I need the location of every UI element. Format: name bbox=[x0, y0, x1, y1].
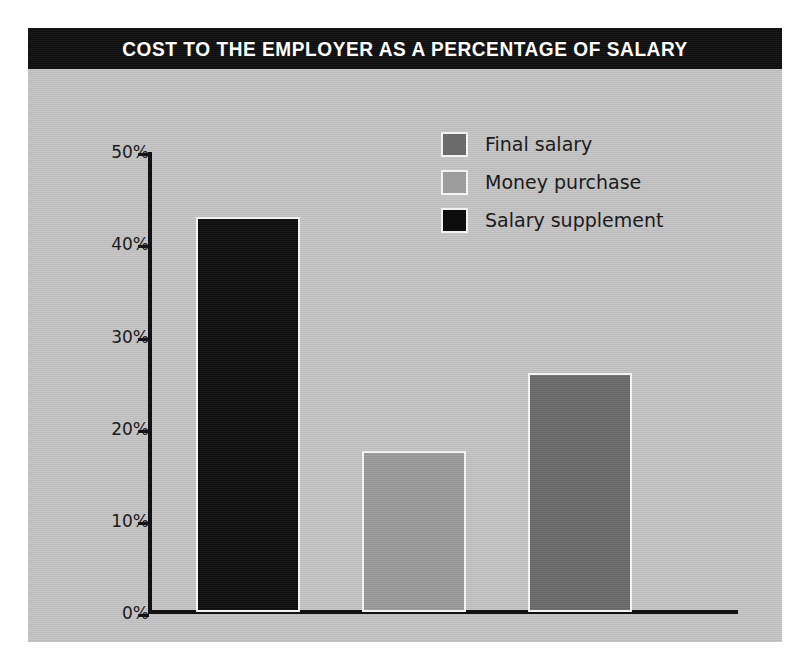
plot-area: 0% 10% 20% 30% 40% 50% bbox=[28, 69, 782, 642]
chart-panel: COST TO THE EMPLOYER AS A PERCENTAGE OF … bbox=[28, 28, 782, 642]
bar-texture bbox=[364, 453, 464, 610]
chart-title: COST TO THE EMPLOYER AS A PERCENTAGE OF … bbox=[122, 37, 688, 61]
bar-salary-supplement bbox=[196, 217, 300, 612]
bar-final-salary bbox=[528, 373, 632, 612]
y-tick-label: 10% bbox=[45, 511, 149, 531]
y-tick-label: 50% bbox=[45, 142, 149, 162]
legend-label: Final salary bbox=[485, 133, 592, 155]
legend-label: Salary supplement bbox=[485, 209, 663, 231]
legend-item-salary-supplement: Salary supplement bbox=[441, 201, 663, 239]
legend-swatch bbox=[441, 132, 468, 157]
chart-figure: COST TO THE EMPLOYER AS A PERCENTAGE OF … bbox=[0, 0, 810, 668]
bar-texture bbox=[198, 219, 298, 610]
legend-label: Money purchase bbox=[485, 171, 641, 193]
chart-legend: Final salary Money purchase Salary suppl… bbox=[441, 125, 663, 239]
y-axis-line bbox=[148, 152, 152, 614]
legend-swatch bbox=[441, 208, 468, 233]
y-tick-label: 40% bbox=[45, 234, 149, 254]
legend-item-final-salary: Final salary bbox=[441, 125, 663, 163]
y-tick-label: 20% bbox=[45, 419, 149, 439]
bar-texture bbox=[530, 375, 630, 610]
y-tick-label: 0% bbox=[45, 603, 149, 623]
legend-swatch bbox=[441, 170, 468, 195]
legend-item-money-purchase: Money purchase bbox=[441, 163, 663, 201]
y-tick-label: 30% bbox=[45, 327, 149, 347]
bar-money-purchase bbox=[362, 451, 466, 612]
chart-title-banner: COST TO THE EMPLOYER AS A PERCENTAGE OF … bbox=[28, 28, 782, 69]
